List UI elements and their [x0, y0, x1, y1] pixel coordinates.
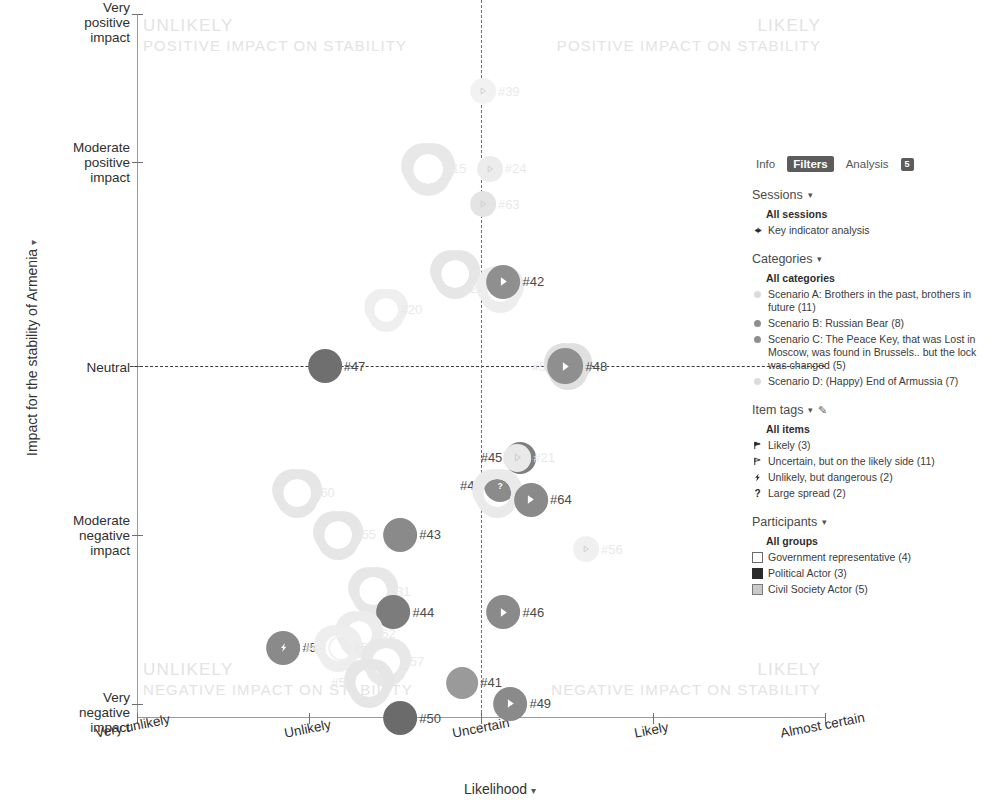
- filter-option[interactable]: ?Large spread (2): [752, 487, 992, 500]
- data-point-marker[interactable]: [503, 444, 531, 472]
- data-point[interactable]: #20: [375, 298, 423, 322]
- categories-title: Categories: [752, 252, 812, 266]
- data-point-label: #63: [498, 197, 520, 212]
- flag-filled-icon: [526, 494, 537, 505]
- data-point[interactable]: #21: [503, 444, 555, 472]
- data-point-marker[interactable]: [487, 595, 521, 629]
- filter-option[interactable]: Scenario B: Russian Bear (8): [752, 317, 992, 330]
- chevron-down-icon[interactable]: ▾: [817, 254, 822, 264]
- data-point-marker[interactable]: [308, 349, 342, 383]
- filter-option-label: Civil Society Actor (5): [768, 583, 992, 596]
- data-point-label: #44: [412, 605, 434, 620]
- categories-list: Scenario A: Brothers in the past, brothe…: [752, 288, 992, 388]
- data-point-label: #64: [550, 492, 572, 507]
- chevron-down-icon[interactable]: ▾: [822, 517, 827, 527]
- y-tick-mark: [132, 704, 143, 705]
- data-point-label: #48: [585, 359, 607, 374]
- data-point-marker[interactable]: [493, 687, 527, 721]
- y-axis-title[interactable]: Impact for the stability of Armenia ▾: [24, 168, 40, 528]
- data-point-marker[interactable]: [487, 265, 521, 299]
- data-point-marker[interactable]: [514, 483, 548, 517]
- category-dot-icon: [752, 375, 763, 388]
- data-point[interactable]: #24: [477, 156, 527, 182]
- data-point-marker[interactable]: [477, 156, 503, 182]
- filter-option[interactable]: Civil Society Actor (5): [752, 583, 992, 596]
- filter-option[interactable]: Likely (3): [752, 439, 992, 452]
- data-point-marker[interactable]: [375, 298, 399, 322]
- participants-header[interactable]: Participants ▾: [752, 515, 992, 529]
- data-point[interactable]: #47: [308, 349, 366, 383]
- filter-option-label: Political Actor (3): [768, 567, 992, 580]
- filters-panel: InfoFiltersAnalysis5 Sessions ▾ All sess…: [752, 156, 992, 611]
- data-point-marker[interactable]: [266, 631, 300, 665]
- filter-option[interactable]: ⌖Key indicator analysis: [752, 224, 992, 237]
- data-point-label: #60: [313, 485, 335, 500]
- x-axis-title[interactable]: Likelihood ▾: [0, 781, 1000, 797]
- data-point[interactable]: #64: [514, 483, 572, 517]
- filter-option-label: Scenario C: The Peace Key, that was Lost…: [768, 333, 992, 372]
- data-point[interactable]: #54: [331, 669, 383, 697]
- data-point-marker[interactable]: [283, 479, 311, 507]
- data-point[interactable]: #46: [487, 595, 545, 629]
- chevron-down-icon[interactable]: ▾: [808, 190, 813, 200]
- filter-option[interactable]: Scenario D: (Happy) End of Armussia (7): [752, 375, 992, 388]
- scatter-plot-area[interactable]: Very positive impactModerate positive im…: [137, 14, 825, 718]
- x-tick-label: Likely: [633, 719, 670, 740]
- data-point-label: #57: [403, 654, 425, 669]
- item-tags-header[interactable]: Item tags ▾ ✎: [752, 403, 992, 417]
- tab-analysis[interactable]: Analysis: [842, 156, 893, 172]
- data-point-marker[interactable]: [325, 635, 351, 661]
- categories-header[interactable]: Categories ▾: [752, 252, 992, 266]
- chevron-down-icon[interactable]: ▾: [531, 785, 536, 796]
- quadrant-title: UNLIKELY: [143, 660, 234, 679]
- filter-option[interactable]: Scenario A: Brothers in the past, brothe…: [752, 288, 992, 314]
- chevron-down-icon[interactable]: ▾: [808, 405, 813, 415]
- data-point[interactable]: #49: [493, 687, 551, 721]
- data-point[interactable]: #60: [283, 479, 335, 507]
- filter-option[interactable]: Government representative (4): [752, 551, 992, 564]
- data-point-marker[interactable]: [470, 191, 496, 217]
- filter-option-label: Unlikely, but dangerous (2): [768, 471, 992, 484]
- edit-pencil-icon[interactable]: ✎: [818, 404, 827, 417]
- data-point[interactable]: #56: [573, 536, 623, 562]
- data-point-label: #55: [354, 527, 376, 542]
- data-point[interactable]: #15: [413, 154, 467, 184]
- sessions-header[interactable]: Sessions ▾: [752, 188, 992, 202]
- sessions-section: Sessions ▾ All sessions ⌖Key indicator a…: [752, 188, 992, 237]
- data-point-marker[interactable]: [413, 154, 443, 184]
- filter-option[interactable]: Uncertain, but on the likely side (11): [752, 455, 992, 468]
- chevron-down-icon[interactable]: ▾: [28, 240, 39, 245]
- x-tick-label: Almost certain: [779, 710, 866, 741]
- tab-info[interactable]: Info: [752, 156, 779, 172]
- data-point[interactable]: #63: [470, 191, 520, 217]
- tab-filters[interactable]: Filters: [787, 156, 834, 172]
- data-point-marker[interactable]: [547, 348, 583, 384]
- data-point-marker[interactable]: [573, 536, 599, 562]
- data-point[interactable]: #43: [383, 518, 441, 552]
- filter-option[interactable]: Political Actor (3): [752, 567, 992, 580]
- data-point-marker[interactable]: [324, 521, 352, 549]
- filter-option[interactable]: Unlikely, but dangerous (2): [752, 471, 992, 484]
- category-dot-icon: [752, 317, 763, 330]
- data-point-marker[interactable]: [383, 701, 417, 735]
- categories-section: Categories ▾ All categories Scenario A: …: [752, 252, 992, 388]
- data-point[interactable]: #39: [470, 78, 520, 104]
- filter-option[interactable]: Scenario C: The Peace Key, that was Lost…: [752, 333, 992, 372]
- data-point-marker[interactable]: [383, 518, 417, 552]
- data-point[interactable]: #53: [325, 635, 375, 661]
- data-point-label: #39: [498, 84, 520, 99]
- filter-count-badge[interactable]: 5: [901, 158, 914, 171]
- data-point[interactable]: #55: [324, 521, 376, 549]
- data-point-marker[interactable]: [355, 669, 383, 697]
- data-point[interactable]: #50: [383, 701, 441, 735]
- panel-tabs: InfoFiltersAnalysis5: [752, 156, 992, 172]
- y-axis-title-text: Impact for the stability of Armenia: [24, 249, 40, 456]
- data-point-marker[interactable]: [470, 78, 496, 104]
- data-point-marker[interactable]: [446, 667, 478, 699]
- data-point[interactable]: #42: [487, 265, 545, 299]
- participant-swatch-icon: [752, 567, 763, 580]
- data-point-marker[interactable]: [483, 479, 511, 507]
- flag-outline-icon: [513, 453, 522, 462]
- data-point[interactable]: #48: [547, 348, 607, 384]
- participant-swatch-icon: [752, 551, 763, 564]
